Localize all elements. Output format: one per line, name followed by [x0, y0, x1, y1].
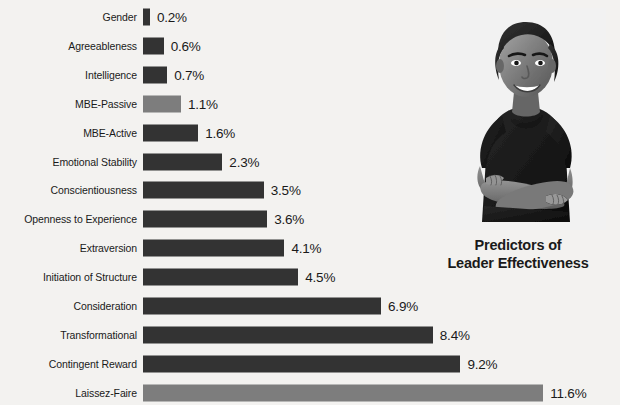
bar-category-label: MBE-Active — [83, 127, 137, 139]
bar-value-label: 8.4% — [440, 327, 470, 342]
bar-row: Transformational8.4% — [0, 322, 620, 348]
bar-category-label: Intelligence — [85, 69, 137, 81]
bar-value-label: 3.6% — [274, 212, 304, 227]
bar-track — [143, 182, 264, 199]
bar-fill — [143, 124, 198, 141]
bar-value-label: 4.5% — [305, 270, 335, 285]
bar-value-label: 9.2% — [467, 356, 497, 371]
bar-fill — [143, 384, 543, 401]
bar-row: Consideration6.9% — [0, 293, 620, 319]
bar-value-label: 4.1% — [291, 241, 321, 256]
bar-category-label: Transformational — [60, 329, 137, 341]
bar-fill — [143, 240, 284, 257]
bar-category-label: Conscientiousness — [51, 184, 137, 196]
bar-value-label: 11.6% — [550, 385, 586, 400]
bar-track — [143, 66, 167, 83]
bar-track — [143, 355, 460, 372]
bar-value-label: 3.5% — [271, 183, 301, 198]
bar-fill — [143, 66, 167, 83]
bar-category-label: Emotional Stability — [53, 156, 137, 168]
photo-svg — [446, 8, 606, 230]
bar-value-label: 1.6% — [205, 125, 235, 140]
bar-fill — [143, 182, 264, 199]
bar-track — [143, 298, 381, 315]
bar-track — [143, 95, 181, 112]
bar-track — [143, 211, 267, 228]
bar-category-label: Contingent Reward — [49, 358, 137, 370]
bar-fill — [143, 95, 181, 112]
bar-track — [143, 124, 198, 141]
bar-value-label: 0.7% — [174, 67, 204, 82]
bar-fill — [143, 37, 164, 54]
bar-track — [143, 9, 150, 26]
bar-fill — [143, 269, 298, 286]
bar-category-label: Gender — [103, 11, 137, 23]
bar-track — [143, 269, 298, 286]
bar-fill — [143, 9, 150, 26]
bar-category-label: Agreeableness — [68, 40, 137, 52]
infographic-root: Gender0.2%Agreeableness0.6%Intelligence0… — [0, 0, 620, 405]
page-title: Predictors of Leader Effectiveness — [420, 236, 616, 272]
bar-value-label: 0.2% — [157, 10, 187, 25]
bar-category-label: Extraversion — [80, 242, 137, 254]
bar-fill — [143, 355, 460, 372]
bar-fill — [143, 298, 381, 315]
bar-fill — [143, 326, 433, 343]
bar-fill — [143, 211, 267, 228]
bar-track — [143, 153, 222, 170]
bar-category-label: Laissez-Faire — [75, 387, 137, 399]
bar-row: Laissez-Faire11.6% — [0, 380, 620, 405]
bar-fill — [143, 153, 222, 170]
bar-value-label: 6.9% — [388, 299, 418, 314]
bar-value-label: 0.6% — [171, 38, 201, 53]
bar-track — [143, 326, 433, 343]
bar-value-label: 2.3% — [229, 154, 259, 169]
bar-category-label: MBE-Passive — [75, 98, 137, 110]
bar-category-label: Initiation of Structure — [43, 271, 137, 283]
bar-track — [143, 37, 164, 54]
bar-value-label: 1.1% — [188, 96, 218, 111]
bar-category-label: Openness to Experience — [24, 213, 137, 225]
bar-track — [143, 384, 543, 401]
leader-photo — [446, 8, 606, 230]
title-line-1: Predictors of — [420, 236, 616, 254]
bar-row: Contingent Reward9.2% — [0, 351, 620, 377]
bar-track — [143, 240, 284, 257]
bar-category-label: Consideration — [74, 300, 138, 312]
title-line-2: Leader Effectiveness — [420, 254, 616, 272]
